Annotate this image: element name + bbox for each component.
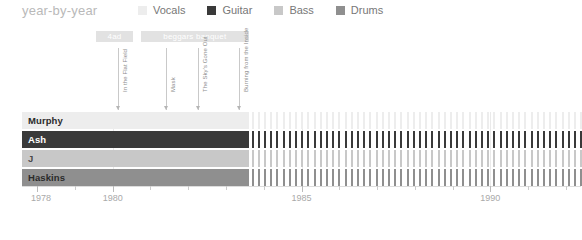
bar-dash-segment bbox=[549, 112, 551, 129]
bar-dash-segment bbox=[438, 131, 440, 148]
bar-dash-segment bbox=[407, 112, 409, 129]
bar-dash-segment bbox=[301, 169, 303, 186]
bar-dash-segment bbox=[388, 150, 390, 167]
bar-dash-segment bbox=[295, 169, 297, 186]
bar-dash-segment bbox=[394, 131, 396, 148]
bar-dash-segment bbox=[438, 150, 440, 167]
album-label[interactable]: Mask bbox=[170, 77, 176, 92]
era-pill[interactable]: 4ad bbox=[96, 31, 134, 42]
bar-dashed-j bbox=[249, 150, 581, 167]
member-row[interactable]: J bbox=[22, 150, 581, 167]
album-label[interactable]: In the Flat Field bbox=[122, 49, 128, 92]
bar-dash-segment bbox=[270, 150, 272, 167]
bar-dash-segment bbox=[481, 112, 483, 129]
bar-dash-segment bbox=[493, 112, 495, 129]
bar-dash-segment bbox=[314, 131, 316, 148]
bar-dash-segment bbox=[431, 169, 433, 186]
bar-dash-segment bbox=[450, 112, 452, 129]
bar-dash-segment bbox=[562, 169, 564, 186]
bar-dash-segment bbox=[469, 169, 471, 186]
bar-dash-segment bbox=[562, 150, 564, 167]
bar-dash-segment bbox=[326, 131, 328, 148]
bar-dash-segment bbox=[270, 169, 272, 186]
bar-dash-segment bbox=[332, 131, 334, 148]
bar-dash-segment bbox=[363, 131, 365, 148]
bar-dash-segment bbox=[506, 112, 508, 129]
album-label[interactable]: Burning from the Inside bbox=[243, 28, 249, 92]
bar-dash-segment bbox=[407, 169, 409, 186]
bar-dash-segment bbox=[518, 150, 520, 167]
bar-active-j[interactable] bbox=[22, 150, 249, 167]
member-row[interactable]: Haskins bbox=[22, 169, 581, 186]
era-pill[interactable]: beggars banquet bbox=[141, 31, 249, 42]
bar-dash-segment bbox=[276, 150, 278, 167]
axis-tick-major bbox=[302, 186, 303, 192]
bar-dash-segment bbox=[493, 131, 495, 148]
bar-dash-segment bbox=[338, 112, 340, 129]
axis-tick-minor bbox=[453, 186, 454, 190]
axis-tick-minor bbox=[377, 186, 378, 190]
bar-dash-segment bbox=[481, 150, 483, 167]
bar-active-ash[interactable] bbox=[22, 131, 249, 148]
bar-dash-segment bbox=[283, 150, 285, 167]
bar-dash-segment bbox=[469, 131, 471, 148]
bar-dash-segment bbox=[419, 131, 421, 148]
bar-dash-segment bbox=[382, 112, 384, 129]
bar-dash-segment bbox=[438, 112, 440, 129]
bar-dashed-haskins bbox=[249, 169, 581, 186]
bar-dash-segment bbox=[425, 169, 427, 186]
bar-dash-segment bbox=[506, 131, 508, 148]
bar-dash-segment bbox=[444, 169, 446, 186]
bar-dash-segment bbox=[295, 112, 297, 129]
member-row[interactable]: Ash bbox=[22, 131, 581, 148]
bar-dash-segment bbox=[500, 150, 502, 167]
bar-dash-segment bbox=[469, 112, 471, 129]
axis-label: 1985 bbox=[291, 193, 311, 203]
bar-dash-segment bbox=[574, 169, 576, 186]
bar-dash-segment bbox=[270, 131, 272, 148]
bar-dash-segment bbox=[512, 131, 514, 148]
bar-dash-segment bbox=[568, 150, 570, 167]
bar-dash-segment bbox=[512, 169, 514, 186]
bar-dash-segment bbox=[555, 131, 557, 148]
bar-dash-segment bbox=[369, 131, 371, 148]
bar-dash-segment bbox=[568, 169, 570, 186]
bar-dash-segment bbox=[524, 131, 526, 148]
bar-dash-segment bbox=[320, 131, 322, 148]
bar-dash-segment bbox=[276, 169, 278, 186]
bar-dash-segment bbox=[363, 112, 365, 129]
axis-label: 1978 bbox=[31, 193, 51, 203]
row-label-murphy: Murphy bbox=[28, 112, 63, 129]
bar-dash-segment bbox=[518, 131, 520, 148]
bar-dash-segment bbox=[332, 112, 334, 129]
bar-dash-segment bbox=[462, 131, 464, 148]
bar-dash-segment bbox=[481, 131, 483, 148]
bar-dash-segment bbox=[512, 150, 514, 167]
bar-dash-segment bbox=[376, 112, 378, 129]
bar-dash-segment bbox=[438, 169, 440, 186]
bar-dash-segment bbox=[363, 150, 365, 167]
bar-dash-segment bbox=[258, 112, 260, 129]
bar-dashed-murphy bbox=[249, 112, 581, 129]
bar-dash-segment bbox=[400, 131, 402, 148]
bar-dash-segment bbox=[264, 112, 266, 129]
bar-dash-segment bbox=[345, 112, 347, 129]
bar-dash-segment bbox=[394, 150, 396, 167]
bar-dash-segment bbox=[524, 150, 526, 167]
bar-dash-segment bbox=[283, 169, 285, 186]
bar-dash-segment bbox=[357, 150, 359, 167]
bar-dash-segment bbox=[407, 150, 409, 167]
album-label[interactable]: The Sky's Gone Out bbox=[202, 36, 208, 92]
bar-dash-segment bbox=[549, 150, 551, 167]
bar-dash-segment bbox=[388, 169, 390, 186]
bar-dash-segment bbox=[444, 150, 446, 167]
bar-dash-segment bbox=[450, 150, 452, 167]
bar-dash-segment bbox=[258, 131, 260, 148]
bar-dash-segment bbox=[555, 169, 557, 186]
axis-tick-major bbox=[37, 186, 38, 192]
bar-dash-segment bbox=[444, 131, 446, 148]
member-row[interactable]: Murphy bbox=[22, 112, 581, 129]
bar-dash-segment bbox=[320, 112, 322, 129]
bar-dash-segment bbox=[574, 112, 576, 129]
bar-dash-segment bbox=[413, 112, 415, 129]
